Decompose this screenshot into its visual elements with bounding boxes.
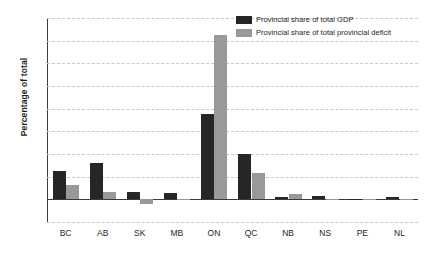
legend-swatch-gdp	[236, 16, 252, 24]
bar-bc-gdp	[53, 171, 66, 199]
gridline	[47, 177, 418, 178]
gridline	[47, 131, 418, 132]
plot-area	[47, 18, 418, 222]
bar-nl-gdp	[386, 197, 399, 199]
bar-on-deficit	[214, 35, 227, 199]
gridline	[47, 222, 418, 223]
gridline	[47, 86, 418, 87]
bar-nb-deficit	[289, 194, 302, 199]
gridline	[47, 154, 418, 155]
gridline	[47, 41, 418, 42]
legend-swatch-deficit	[236, 29, 252, 37]
legend: Provincial share of total GDP Provincial…	[236, 14, 391, 40]
gridline	[47, 109, 418, 110]
gridline	[47, 63, 418, 64]
bar-qc-gdp	[238, 154, 251, 199]
bar-ab-deficit	[103, 192, 116, 199]
bar-ns-gdp	[312, 196, 325, 199]
bar-qc-deficit	[252, 173, 265, 200]
bar-on-gdp	[201, 114, 214, 200]
bar-mb-deficit	[177, 199, 190, 200]
legend-label-gdp: Provincial share of total GDP	[256, 14, 354, 25]
bar-sk-gdp	[127, 192, 140, 199]
bar-mb-gdp	[164, 193, 177, 199]
x-tick-label-nl: NL	[369, 228, 427, 238]
bar-pe-gdp	[349, 199, 362, 200]
legend-label-deficit: Provincial share of total provincial def…	[256, 27, 391, 38]
legend-item-gdp: Provincial share of total GDP	[236, 14, 391, 25]
bar-nb-gdp	[275, 197, 288, 200]
bar-nl-deficit	[400, 199, 413, 200]
bar-bc-deficit	[66, 185, 79, 199]
bar-pe-deficit	[363, 199, 376, 200]
bar-sk-deficit	[140, 199, 153, 204]
legend-item-deficit: Provincial share of total provincial def…	[236, 27, 391, 38]
bar-ns-deficit	[326, 199, 339, 200]
bar-ab-gdp	[90, 163, 103, 200]
bar-chart: Percentage of total 80706050403020100-10…	[0, 0, 427, 268]
